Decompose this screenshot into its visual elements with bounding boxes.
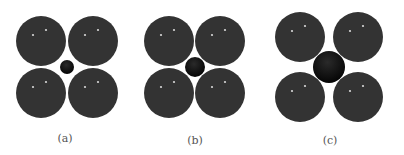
highlight-dot <box>349 30 351 32</box>
large-sphere-bottom-left <box>144 68 194 118</box>
highlight-dot <box>173 81 175 83</box>
panel-label-a: (a) <box>57 132 72 145</box>
highlight-dot <box>84 86 86 88</box>
panel-a <box>16 16 118 118</box>
large-sphere-top-right <box>195 16 245 66</box>
panel-c <box>275 12 383 122</box>
highlight-dot <box>362 85 364 87</box>
large-sphere-top-right <box>333 12 383 62</box>
highlight-dot <box>32 86 34 88</box>
highlight-dot <box>291 90 293 92</box>
highlight-dot <box>160 86 162 88</box>
large-sphere-top-right <box>68 16 118 66</box>
large-sphere-bottom-right <box>195 68 245 118</box>
highlight-dot <box>224 29 226 31</box>
interstitial-sphere <box>60 60 74 74</box>
highlight-dot <box>224 81 226 83</box>
highlight-dot <box>349 90 351 92</box>
panel-b <box>144 16 245 118</box>
highlight-dot <box>45 29 47 31</box>
highlight-dot <box>362 25 364 27</box>
large-sphere-bottom-left <box>16 68 66 118</box>
large-sphere-top-left <box>16 16 66 66</box>
highlight-dot <box>211 34 213 36</box>
interstitial-sphere <box>185 57 205 77</box>
panel-label-c: (c) <box>323 134 338 147</box>
large-sphere-top-left <box>144 16 194 66</box>
highlight-dot <box>304 25 306 27</box>
highlight-dot <box>45 81 47 83</box>
highlight-dot <box>32 34 34 36</box>
highlight-dot <box>84 34 86 36</box>
large-sphere-bottom-right <box>333 72 383 122</box>
highlight-dot <box>304 85 306 87</box>
highlight-dot <box>160 34 162 36</box>
highlight-dot <box>97 81 99 83</box>
highlight-dot <box>97 29 99 31</box>
large-sphere-bottom-right <box>68 68 118 118</box>
large-sphere-bottom-left <box>275 72 325 122</box>
highlight-dot <box>173 29 175 31</box>
panel-label-b: (b) <box>187 134 203 147</box>
highlight-dot <box>291 30 293 32</box>
large-sphere-top-left <box>275 12 325 62</box>
interstitial-sphere <box>313 51 345 83</box>
highlight-dot <box>211 86 213 88</box>
